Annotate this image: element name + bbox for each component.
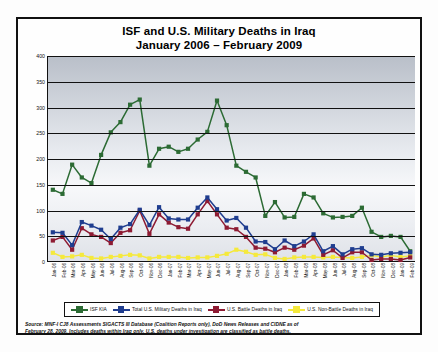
- legend-marker-icon: [113, 306, 130, 313]
- data-point: [186, 256, 190, 260]
- data-point: [321, 211, 325, 215]
- y-tick-label: 0: [42, 259, 45, 265]
- data-point: [254, 175, 258, 179]
- gridline: [48, 159, 415, 160]
- data-point: [331, 255, 335, 259]
- legend-label: ISF KIA: [90, 307, 107, 312]
- legend-label: U.S. Battle Deaths in Iraq: [227, 307, 282, 312]
- data-point: [70, 243, 74, 247]
- y-tick-label: 400: [36, 53, 45, 59]
- x-tick-label: Jan-09: [400, 263, 405, 277]
- gridline: [48, 236, 415, 237]
- x-tick-label: Feb-06: [62, 263, 67, 278]
- x-tick-label: Jul-08: [342, 263, 347, 276]
- legend-marker-icon: [208, 306, 225, 313]
- data-point: [398, 258, 402, 262]
- x-tick-label: Oct-07: [255, 263, 260, 277]
- plot-area: [47, 56, 415, 262]
- data-point: [331, 215, 335, 219]
- data-point: [176, 255, 180, 259]
- source-note-line1: Source: MNF-I CJ8 Assessments SIGACTS II…: [25, 321, 417, 328]
- data-point: [292, 255, 296, 259]
- data-point: [244, 250, 248, 254]
- x-tick-label: Sep-06: [129, 263, 134, 278]
- data-point: [244, 170, 248, 174]
- data-point: [292, 244, 296, 248]
- data-point: [350, 256, 354, 260]
- data-point: [109, 241, 113, 245]
- series-1: [51, 97, 413, 253]
- data-point: [369, 252, 373, 256]
- data-point: [167, 220, 171, 224]
- data-point: [234, 164, 238, 168]
- x-tick-label: Feb-08: [294, 263, 299, 278]
- x-tick-label: Sep-07: [246, 263, 251, 278]
- x-tick-label: May-06: [91, 263, 96, 278]
- data-point: [51, 230, 55, 234]
- x-tick-label: Aug-07: [236, 263, 241, 278]
- chart-frame: ISF and U.S. Military Deaths in Iraq Jan…: [16, 17, 422, 335]
- legend-marker-icon: [288, 306, 305, 313]
- data-point: [398, 251, 402, 255]
- data-point: [109, 237, 113, 241]
- data-point: [167, 145, 171, 149]
- chart-title-line2: January 2006 – February 2009: [18, 39, 420, 53]
- x-tick-label: Jun-07: [216, 263, 221, 277]
- data-point: [234, 216, 238, 220]
- gridline: [48, 108, 415, 109]
- chart-title-line1: ISF and U.S. Military Deaths in Iraq: [122, 25, 315, 37]
- gridline: [48, 185, 415, 186]
- x-tick-label: Feb-07: [178, 263, 183, 278]
- data-point: [196, 137, 200, 141]
- data-point: [215, 212, 219, 216]
- data-point: [369, 258, 373, 262]
- gridline: [48, 211, 415, 212]
- data-point: [340, 252, 344, 256]
- data-point: [80, 175, 84, 179]
- data-point: [292, 248, 296, 252]
- legend-label: U.S. Non-Battle Deaths in Iraq: [307, 307, 373, 312]
- data-point: [80, 220, 84, 224]
- data-point: [89, 256, 93, 260]
- data-point: [408, 250, 412, 254]
- x-tick-label: Jun-06: [100, 263, 105, 277]
- data-point: [128, 103, 132, 107]
- data-point: [302, 192, 306, 196]
- data-point: [283, 257, 287, 261]
- data-point: [273, 200, 277, 204]
- data-point: [99, 153, 103, 157]
- gridline: [48, 82, 415, 83]
- data-point: [176, 150, 180, 154]
- y-axis-labels: 050100150200250300350400: [24, 56, 46, 262]
- y-tick-label: 50: [39, 233, 45, 239]
- x-tick-label: Aug-06: [120, 263, 125, 278]
- data-point: [369, 230, 373, 234]
- data-point: [263, 247, 267, 251]
- x-tick-label: Feb-09: [410, 263, 415, 278]
- data-point: [60, 231, 64, 235]
- data-point: [263, 214, 267, 218]
- data-point: [147, 164, 151, 168]
- data-point: [225, 123, 229, 127]
- data-point: [128, 228, 132, 232]
- data-point: [157, 255, 161, 259]
- x-tick-label: Aug-08: [352, 263, 357, 278]
- data-point: [389, 257, 393, 261]
- data-point: [128, 222, 132, 226]
- data-point: [147, 223, 151, 227]
- legend-marker-icon: [71, 306, 88, 313]
- y-tick-label: 100: [36, 208, 45, 214]
- data-point: [196, 255, 200, 259]
- data-point: [254, 253, 258, 257]
- source-note-line2: February 28, 2009. Includes deaths withi…: [25, 328, 417, 335]
- data-point: [408, 255, 412, 259]
- y-tick-label: 250: [36, 130, 45, 136]
- x-tick-label: Nov-08: [381, 263, 386, 278]
- data-point: [138, 97, 142, 101]
- data-point: [215, 99, 219, 103]
- legend-item-4: U.S. Non-Battle Deaths in Iraq: [288, 306, 373, 313]
- x-tick-label: Apr-07: [197, 263, 202, 277]
- data-point: [244, 226, 248, 230]
- data-point: [157, 212, 161, 216]
- data-point: [118, 120, 122, 124]
